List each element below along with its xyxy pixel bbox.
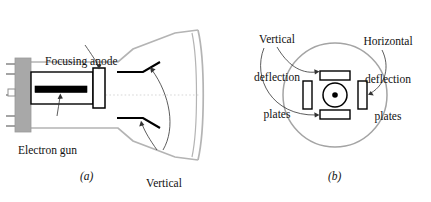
label-vertical-deflection-plates-b: Vertical deflection plates [246, 8, 308, 146]
lower-deflection-plate [117, 118, 160, 128]
leader-arrow-vdp-lower-a [139, 121, 144, 127]
leader-arrow-vdp-bottom-b [314, 112, 319, 117]
plate-bottom-vertical-deflection [320, 110, 350, 119]
cathode-ray-tube-figure: Focusing anode Electron gun Vertical def… [0, 0, 431, 202]
label-vertical-deflection-plates-a: Vertical deflection plates [133, 152, 195, 202]
plate-top-vertical-deflection [320, 71, 350, 80]
socket-pin-center-box [8, 89, 15, 96]
panel-tag-b: (b) [328, 170, 341, 182]
tube-screen-face [198, 30, 203, 160]
label-horizontal-deflection-plates-b: Horizontal deflection plates [352, 10, 424, 148]
leader-vdp-upper-a [152, 70, 170, 150]
label-focusing-anode: Focusing anode [45, 30, 118, 93]
panel-tag-a: (a) [80, 170, 93, 182]
leader-arrow-vdp-upper-a [150, 67, 156, 73]
label-electron-gun: Electron gun [18, 119, 77, 182]
leader-arrow-vdp-top-b [314, 69, 319, 74]
beam-dot-icon [332, 92, 338, 98]
